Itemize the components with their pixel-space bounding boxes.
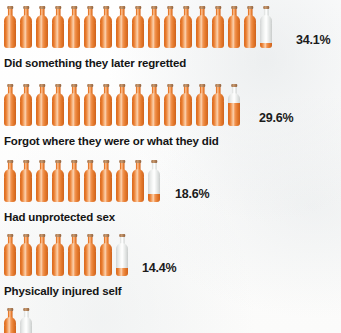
bottle-body bbox=[68, 100, 80, 126]
bottle-cap bbox=[87, 234, 93, 237]
chart-row-unprotected-sex: 18.6% Had unprotected sex bbox=[0, 160, 341, 230]
bottle-group-cutoff bbox=[4, 308, 36, 333]
bottle-body bbox=[196, 22, 208, 48]
bottle-cap bbox=[23, 234, 29, 237]
value-label-injured: 14.4% bbox=[142, 261, 176, 275]
bottle-icon bbox=[36, 234, 48, 276]
bottle-cap bbox=[167, 6, 173, 9]
bottle-body bbox=[20, 22, 32, 48]
bottle-icon bbox=[4, 308, 16, 333]
bottle-icon bbox=[52, 234, 64, 276]
bottle-icon bbox=[84, 84, 96, 126]
bottle-body bbox=[36, 100, 48, 126]
bottle-body bbox=[4, 324, 16, 333]
bottle-icon bbox=[68, 6, 80, 48]
bottle-body bbox=[132, 100, 144, 126]
bottle-body bbox=[36, 250, 48, 276]
bottle-group-injured bbox=[4, 234, 132, 276]
bottle-cap bbox=[135, 160, 141, 163]
bottle-body bbox=[20, 100, 32, 126]
bottle-liquid-level bbox=[116, 268, 128, 276]
bottle-body bbox=[212, 100, 224, 126]
value-label-regretted: 34.1% bbox=[296, 33, 330, 47]
bottle-icon bbox=[20, 84, 32, 126]
bottle-icon bbox=[20, 160, 32, 202]
bottle-icon bbox=[68, 84, 80, 126]
bottle-body bbox=[20, 176, 32, 202]
bottle-icon bbox=[164, 84, 176, 126]
bottle-icon bbox=[36, 6, 48, 48]
bottle-cap bbox=[23, 84, 29, 87]
bottle-icon bbox=[148, 6, 160, 48]
bottle-cap bbox=[87, 6, 93, 9]
bottle-body bbox=[4, 176, 16, 202]
bottle-body bbox=[212, 22, 224, 48]
bottle-cap bbox=[167, 84, 173, 87]
bottle-cap bbox=[135, 84, 141, 87]
bottle-icon bbox=[116, 6, 128, 48]
bottle-body bbox=[84, 250, 96, 276]
category-label-unprotected-sex: Had unprotected sex bbox=[4, 211, 115, 223]
bottle-icon bbox=[180, 6, 192, 48]
bottle-group-unprotected-sex bbox=[4, 160, 164, 202]
bottle-icon bbox=[20, 6, 32, 48]
bottle-icon bbox=[100, 6, 112, 48]
bottle-body bbox=[68, 22, 80, 48]
bottle-cap bbox=[247, 6, 253, 9]
bottle-icon bbox=[36, 160, 48, 202]
bottle-cap bbox=[151, 84, 157, 87]
bottle-icon bbox=[4, 6, 16, 48]
bottle-liquid-level bbox=[148, 194, 160, 202]
bottle-icon bbox=[196, 6, 208, 48]
bottle-body bbox=[20, 324, 32, 333]
bottle-cap bbox=[103, 234, 109, 237]
bottle-body bbox=[20, 250, 32, 276]
bottle-icon bbox=[84, 234, 96, 276]
bottle-icon bbox=[212, 6, 224, 48]
category-label-injured: Physically injured self bbox=[4, 285, 121, 297]
bottle-body bbox=[260, 22, 272, 48]
bottle-icon bbox=[116, 84, 128, 126]
bottle-cap bbox=[231, 84, 237, 87]
bottle-group-forgot bbox=[4, 84, 244, 126]
bottle-body bbox=[228, 100, 240, 126]
bottle-body bbox=[68, 176, 80, 202]
bottle-icon bbox=[196, 84, 208, 126]
bottle-liquid-level bbox=[228, 103, 240, 126]
bottle-body bbox=[84, 22, 96, 48]
bottle-icon bbox=[84, 6, 96, 48]
bottle-cap bbox=[7, 160, 13, 163]
bottle-body bbox=[4, 100, 16, 126]
bottle-icon bbox=[4, 160, 16, 202]
bottle-cap bbox=[119, 84, 125, 87]
bottle-cap bbox=[135, 6, 141, 9]
bottle-cap bbox=[71, 6, 77, 9]
bottle-cap bbox=[71, 234, 77, 237]
bottle-body bbox=[4, 250, 16, 276]
bottle-cap bbox=[55, 234, 61, 237]
bottle-body bbox=[132, 176, 144, 202]
bottle-icon bbox=[68, 234, 80, 276]
bottle-body bbox=[164, 22, 176, 48]
bottle-group-regretted bbox=[4, 6, 276, 48]
bottle-icon bbox=[84, 160, 96, 202]
bottle-cap bbox=[7, 6, 13, 9]
bottle-cap bbox=[23, 308, 29, 311]
bottle-body bbox=[180, 100, 192, 126]
bottle-body bbox=[52, 22, 64, 48]
bottle-cap bbox=[55, 84, 61, 87]
bottle-cap bbox=[183, 6, 189, 9]
bottle-body bbox=[196, 100, 208, 126]
bottle-cap bbox=[7, 234, 13, 237]
bottle-cap bbox=[151, 160, 157, 163]
bottle-cap bbox=[231, 6, 237, 9]
bottle-icon bbox=[132, 6, 144, 48]
bottle-icon bbox=[132, 84, 144, 126]
bottle-icon bbox=[244, 6, 256, 48]
bottle-body bbox=[164, 100, 176, 126]
bottle-body bbox=[100, 176, 112, 202]
bottle-body bbox=[148, 22, 160, 48]
value-label-forgot: 29.6% bbox=[259, 111, 293, 125]
chart-row-forgot: 29.6% Forgot where they were or what the… bbox=[0, 84, 341, 154]
bottle-cap bbox=[87, 84, 93, 87]
